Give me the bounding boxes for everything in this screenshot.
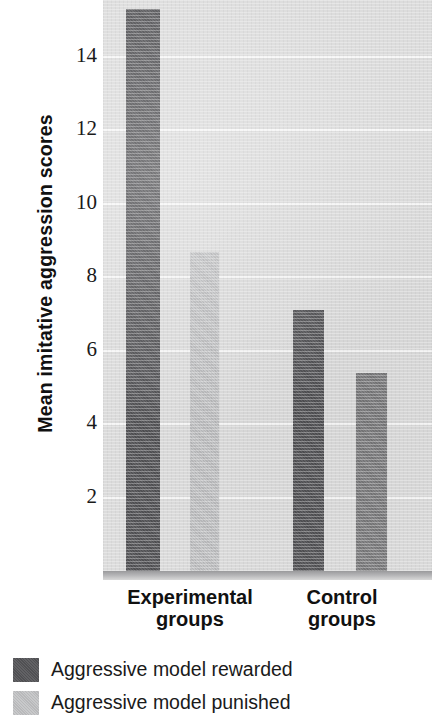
axis-baseline-shadow — [103, 571, 432, 580]
bar-control-punished — [356, 373, 387, 571]
plot-area — [103, 0, 432, 571]
chart-legend: Aggressive model rewarded Aggressive mod… — [13, 653, 432, 719]
bar-experimental-punished — [190, 252, 219, 571]
x-category-experimental-line2: groups — [102, 608, 278, 630]
bar-texture — [190, 252, 219, 571]
y-tick-4: 4 — [51, 412, 97, 433]
swatch-texture — [13, 658, 39, 682]
legend-swatch-punished-icon — [13, 691, 39, 715]
legend-label-punished: Aggressive model punished — [51, 691, 291, 714]
y-tick-10: 10 — [51, 192, 97, 213]
legend-item-punished: Aggressive model punished — [13, 686, 432, 719]
swatch-texture — [13, 691, 39, 715]
y-tick-2: 2 — [51, 486, 97, 507]
x-category-control-line2: groups — [286, 608, 398, 630]
legend-item-rewarded: Aggressive model rewarded — [13, 653, 432, 686]
y-tick-6: 6 — [51, 339, 97, 360]
bar-experimental-rewarded — [126, 9, 160, 571]
x-category-experimental: Experimental groups — [102, 586, 278, 631]
y-tick-12: 12 — [51, 118, 97, 139]
bar-control-rewarded — [293, 310, 324, 571]
y-tick-8: 8 — [51, 265, 97, 286]
legend-swatch-rewarded-icon — [13, 658, 39, 682]
bar-chart-figure: Mean imitative aggression scores 14 12 1… — [0, 0, 432, 727]
bar-texture — [356, 373, 387, 571]
x-category-control: Control groups — [286, 586, 398, 631]
y-axis-tick-labels: 14 12 10 8 6 4 2 — [40, 0, 97, 571]
legend-label-rewarded: Aggressive model rewarded — [51, 658, 293, 681]
bar-texture — [293, 310, 324, 571]
y-tick-14: 14 — [51, 45, 97, 66]
bar-texture — [126, 9, 160, 571]
x-category-experimental-line1: Experimental — [102, 586, 278, 608]
x-category-control-line1: Control — [286, 586, 398, 608]
